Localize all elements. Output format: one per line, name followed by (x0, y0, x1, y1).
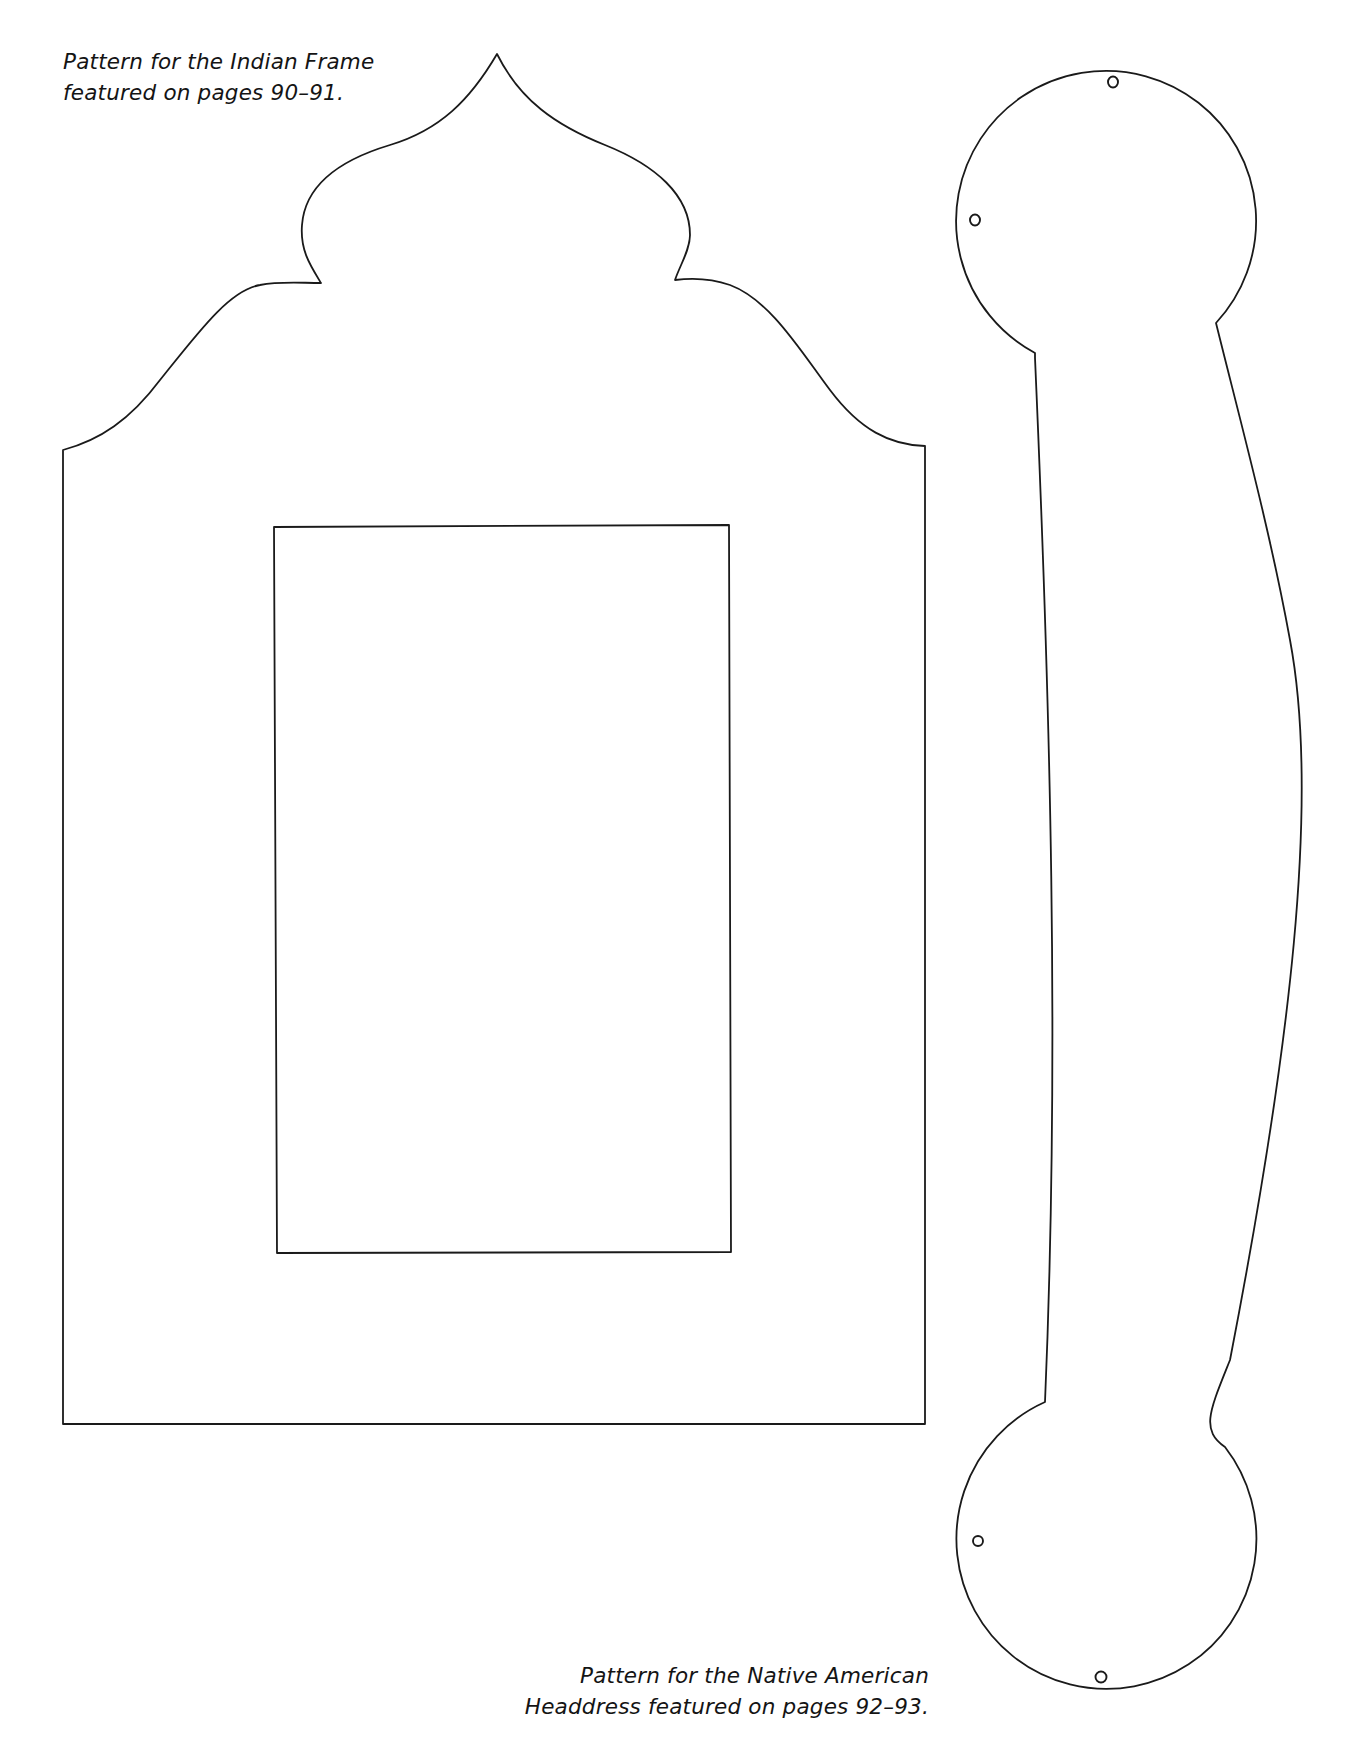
headdress-caption-line-1: Pattern for the Native American (525, 1660, 929, 1691)
punch-hole-top-2 (970, 215, 980, 226)
headdress-caption-line-2: Headdress featured on pages 92–93. (525, 1691, 929, 1722)
punch-hole-bottom-2 (1096, 1672, 1107, 1683)
indian-frame-pattern (63, 54, 925, 1424)
indian-frame-outer-outline (63, 54, 925, 1424)
punch-hole-bottom-1 (973, 1536, 983, 1546)
pattern-artwork (0, 0, 1363, 1761)
headdress-caption: Pattern for the Native American Headdres… (525, 1660, 929, 1722)
headdress-pattern (956, 71, 1302, 1689)
indian-frame-inner-window (274, 525, 731, 1253)
headdress-outline (956, 71, 1302, 1689)
punch-hole-top-1 (1108, 77, 1118, 88)
